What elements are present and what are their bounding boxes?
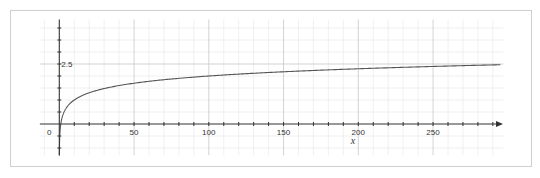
- tick-labels: 0501001502002502.5: [47, 60, 440, 137]
- x-tick-label: 250: [426, 128, 440, 137]
- x-tick-label: 0: [47, 128, 52, 137]
- x-tick-label: 150: [277, 128, 291, 137]
- x-tick-label: 50: [130, 128, 139, 137]
- y-tick-label: 2.5: [61, 60, 73, 69]
- function-curve: [59, 65, 500, 155]
- x-tick-label: 100: [202, 128, 216, 137]
- chart-plot: 0501001502002502.5 x: [0, 0, 540, 178]
- x-axis-arrow-icon: [496, 121, 503, 127]
- x-axis-title: x: [350, 135, 356, 146]
